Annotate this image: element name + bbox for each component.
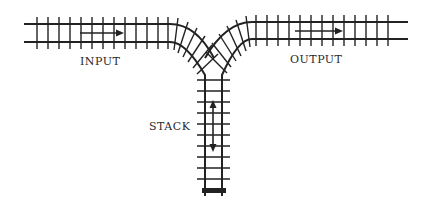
railway-diagram [0,0,424,206]
output-label: OUTPUT [290,53,342,66]
output-arrow-icon [295,28,343,35]
input-label: INPUT [80,55,120,68]
stack-bidirectional-arrow-icon [210,100,217,152]
buffer-stop [202,188,226,193]
output-track [205,22,408,196]
input-arrow-icon [80,30,124,37]
input-track [24,24,214,196]
stack-label: STACK [149,120,190,133]
